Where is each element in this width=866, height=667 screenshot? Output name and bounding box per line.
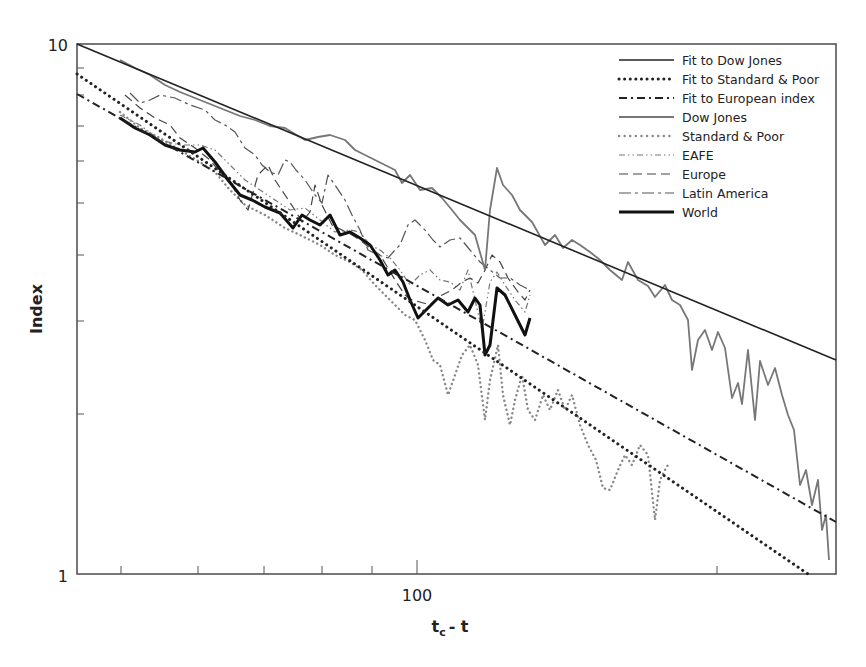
legend-label: Latin America [682, 186, 768, 201]
legend-label: EAFE [682, 148, 714, 163]
legend: Fit to Dow JonesFit to Standard & PoorFi… [605, 45, 835, 225]
legend-label: World [682, 205, 718, 220]
x-tick-label-100: 100 [402, 586, 433, 605]
y-tick-label-10: 10 [48, 36, 68, 55]
legend-label: Dow Jones [682, 110, 747, 125]
x-axis-title: tc- t [431, 617, 468, 639]
y-tick-label-1: 1 [58, 567, 68, 586]
legend-label: Standard & Poor [682, 129, 785, 144]
legend-label: Fit to Standard & Poor [682, 72, 820, 87]
legend-label: Fit to Dow Jones [682, 53, 782, 68]
legend-label: Europe [682, 167, 726, 182]
x-axis-title-sub: c [439, 626, 446, 639]
x-axis-title-tail: - t [449, 617, 469, 636]
chart: 10 1 100 Index tc- t Fit to Dow JonesFit… [0, 0, 866, 667]
y-axis-title: Index [27, 283, 46, 334]
legend-label: Fit to European index [682, 91, 815, 106]
